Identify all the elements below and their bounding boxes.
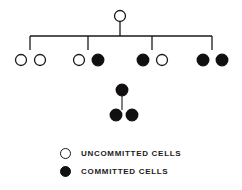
cell-3-1 [137,54,149,66]
cell-lineage-diagram: UNCOMMITTED CELLS COMMITTED CELLS [0,0,242,190]
cell-3-2 [157,55,168,66]
legend-label-committed: COMMITTED CELLS [81,166,168,177]
cell-2-2 [92,54,104,66]
cell-4-2 [216,54,228,66]
cell-4-1 [197,54,209,66]
subtree-parent-cell [116,84,128,96]
filled-circle-icon [60,166,71,177]
legend-item-committed: COMMITTED CELLS [60,166,168,177]
legend-item-uncommitted: UNCOMMITTED CELLS [60,148,181,159]
cell-1-1 [16,55,27,66]
cell-2-1 [74,55,85,66]
root-uncommitted-cell [115,11,126,22]
open-circle-icon [60,148,71,159]
cell-1-2 [35,55,46,66]
subtree-child-1 [110,109,122,121]
legend-label-uncommitted: UNCOMMITTED CELLS [81,148,181,159]
lineage-tree-graphic [0,0,242,190]
subtree-child-2 [126,109,138,121]
